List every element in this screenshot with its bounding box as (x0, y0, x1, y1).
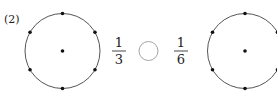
left-point-bottom (61, 87, 65, 91)
fraction-right-numerator: 1 (177, 35, 185, 50)
left-circle-figure (25, 12, 100, 91)
answer-blank-circle[interactable] (139, 42, 158, 61)
right-center-dot (243, 49, 247, 53)
right-circle-figure (208, 12, 278, 91)
fraction-left-denominator: 3 (115, 52, 123, 67)
diagram-canvas: (2) 1 3 1 6 (0, 0, 277, 97)
left-point-upper-right (93, 30, 97, 34)
left-point-top (61, 12, 65, 16)
left-center-dot (61, 49, 65, 53)
left-point-lower-left (28, 68, 32, 72)
right-circle (208, 14, 278, 89)
problem-label: (2) (4, 13, 20, 26)
right-point-upper-right (276, 30, 277, 34)
right-point-bottom (243, 87, 247, 91)
right-point-lower-left (211, 68, 215, 72)
left-point-lower-right (93, 68, 97, 72)
right-point-lower-right (276, 68, 277, 72)
left-point-upper-left (28, 30, 32, 34)
fraction-one-third: 1 3 (112, 35, 126, 67)
fraction-one-sixth: 1 6 (174, 35, 188, 67)
right-point-upper-left (211, 30, 215, 34)
right-point-top (243, 12, 247, 16)
fraction-right-denominator: 6 (177, 52, 185, 67)
fraction-left-numerator: 1 (115, 35, 123, 50)
